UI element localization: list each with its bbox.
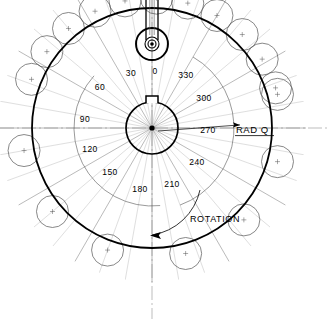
radial-line-310 xyxy=(152,29,270,128)
radial-line-20 xyxy=(99,0,152,128)
radial-line-50 xyxy=(34,29,152,128)
keyway-notch xyxy=(146,96,158,103)
angle-label-0: 0 xyxy=(152,66,157,76)
angle-label-180: 180 xyxy=(132,184,147,194)
angle-label-30: 30 xyxy=(126,68,136,78)
angle-label-150: 150 xyxy=(102,167,117,177)
angle-label-330: 330 xyxy=(178,70,193,80)
angle-label-210: 210 xyxy=(164,179,179,189)
angle-label-90: 90 xyxy=(80,114,90,124)
rotation-arrowhead xyxy=(150,232,161,239)
radial-line-230 xyxy=(152,128,270,227)
technical-drawing-canvas: 0306090120150180210240270300330RAD QROTA… xyxy=(0,0,327,319)
radial-line-290 xyxy=(152,75,297,128)
rad-q-label: RAD Q xyxy=(236,124,269,135)
shaft-center-dot xyxy=(150,42,154,46)
radial-line-40 xyxy=(53,10,152,128)
angle-label-240: 240 xyxy=(189,157,204,167)
angle-label-120: 120 xyxy=(82,144,97,154)
radial-line-320 xyxy=(152,10,251,128)
radial-line-130 xyxy=(34,128,152,227)
roller-circle-5 xyxy=(141,0,173,14)
rotation-label: ROTATION xyxy=(190,214,240,224)
radial-line-340 xyxy=(152,0,205,128)
hub-center-dot xyxy=(149,125,154,130)
radial-line-110 xyxy=(7,128,152,181)
angle-label-270: 270 xyxy=(200,125,215,135)
angle-label-60: 60 xyxy=(95,82,105,92)
angle-label-300: 300 xyxy=(196,93,211,103)
cam-layout-diagram: 0306090120150180210240270300330RAD QROTA… xyxy=(0,0,327,319)
radial-line-250 xyxy=(152,128,297,181)
radial-line-160 xyxy=(99,128,152,273)
rotation-arc xyxy=(152,190,200,235)
radial-line-30 xyxy=(75,0,152,128)
